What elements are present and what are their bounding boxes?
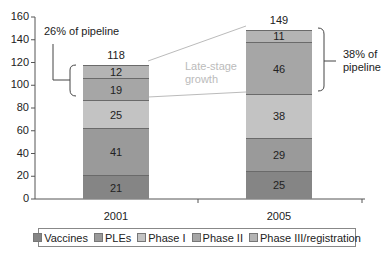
total-label-2001: 118 [83,49,149,61]
legend-item: Vaccines [33,232,88,244]
legend-item: Phase III/registration [249,232,361,244]
y-tick-label: 160 [5,10,29,22]
y-tick-label: 120 [5,56,29,68]
annotation-26-percent: 26% of pipeline [44,25,119,38]
legend-label: Phase III/registration [260,232,361,244]
legend-swatch-icon [249,233,258,242]
legend-swatch-icon [33,233,42,242]
x-label-2001: 2001 [83,210,149,222]
y-tick-label: 60 [5,124,29,136]
y-tick-label: 140 [5,33,29,45]
legend-swatch-icon [94,233,103,242]
bar-segment-phase-i: 25 [83,100,149,128]
annotation-38-percent-line1: 38% of [343,48,377,61]
legend-swatch-icon [137,233,146,242]
bar-2001: 2141251912 [83,65,149,199]
y-tick-label: 20 [5,169,29,181]
legend-label: Phase II [203,232,243,244]
bar-segment-ples: 29 [246,138,312,171]
y-tick-label: 80 [5,101,29,113]
bar-segment-ples: 41 [83,128,149,175]
bar-segment-phase-i: 38 [246,94,312,137]
bar-segment-phase-iii-registration: 12 [83,65,149,79]
total-label-2005: 149 [246,14,312,26]
late-stage-growth-line2: growth [185,73,218,86]
y-tick-label: 40 [5,147,29,159]
bar-2005: 2529384611 [246,30,312,199]
legend-swatch-icon [192,233,201,242]
bar-segment-vaccines: 25 [246,171,312,199]
bar-segment-vaccines: 21 [83,175,149,199]
bar-segment-phase-iii-registration: 11 [246,30,312,43]
late-stage-growth-line1: Late-stage [185,60,237,73]
bar-segment-phase-ii: 46 [246,42,312,94]
legend-label: Phase I [148,232,185,244]
legend-item: Phase II [192,232,243,244]
y-tick-label: 0 [5,192,29,204]
legend-label: Vaccines [44,232,88,244]
legend-label: PLEs [105,232,131,244]
chart-legend: VaccinesPLEsPhase IPhase IIPhase III/reg… [38,228,356,247]
legend-item: Phase I [137,232,185,244]
bar-segment-phase-ii: 19 [83,78,149,100]
legend-item: PLEs [94,232,131,244]
y-tick-label: 100 [5,78,29,90]
chart-axes [0,0,387,256]
annotation-38-percent-line2: pipeline [343,61,381,74]
x-label-2005: 2005 [246,210,312,222]
